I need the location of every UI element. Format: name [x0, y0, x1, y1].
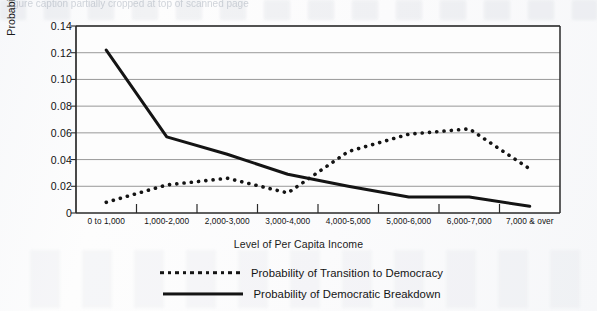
chart-legend: Probability of Transition to DemocracyPr… [0, 262, 597, 304]
y-axis-tick-label: 0.04 [51, 154, 72, 166]
y-axis-tick-label: 0.06 [51, 127, 72, 139]
legend-item: Probability of Transition to Democracy [0, 262, 597, 283]
legend-label: Probability of Democratic Breakdown [254, 288, 441, 300]
y-axis-tick-label: 0.08 [51, 100, 72, 112]
legend-dotted-line-icon [154, 267, 242, 279]
plot-background [76, 26, 560, 213]
regime-transition-line-chart: Probability of Regime Transition 00.020.… [0, 0, 597, 311]
x-axis-tick-label: 2,000-3,000 [205, 216, 250, 226]
x-axis-tick-labels: 0 to 1,0001,000-2,0002,000-3,0003,000-4,… [0, 216, 597, 234]
x-axis-tick-label: 0 to 1,000 [88, 216, 125, 226]
legend-solid-line-icon [157, 288, 245, 300]
legend-item: Probability of Democratic Breakdown [0, 283, 597, 304]
y-axis-tick-label: 0.12 [51, 47, 72, 59]
x-axis-tick-label: 1,000-2,000 [144, 216, 189, 226]
y-axis-tick-label: 0.02 [51, 180, 72, 192]
y-axis-title: Probability of Regime Transition [5, 0, 19, 54]
x-axis-tick-label: 5,000-6,000 [386, 216, 431, 226]
legend-label: Probability of Transition to Democracy [251, 267, 443, 279]
y-axis-tick-label: 0.10 [51, 73, 72, 85]
x-axis-title: Level of Per Capita Income [0, 238, 597, 250]
x-axis-tick-label: 3,000-4,000 [265, 216, 310, 226]
x-axis-tick-label: 7,000 & over [506, 216, 554, 226]
x-axis-tick-label: 4,000-5,000 [326, 216, 371, 226]
y-axis-tick-label: 0.14 [51, 20, 72, 32]
x-axis-tick-label: 6,000-7,000 [447, 216, 492, 226]
